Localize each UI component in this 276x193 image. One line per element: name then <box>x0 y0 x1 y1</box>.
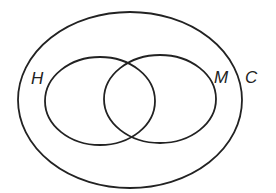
set-m-ellipse <box>104 55 216 143</box>
label-m: M <box>214 68 229 87</box>
label-c: C <box>245 68 258 87</box>
set-h-ellipse <box>45 57 155 145</box>
venn-diagram: H M C <box>0 0 276 193</box>
label-h: H <box>31 69 44 88</box>
set-c-ellipse <box>18 12 242 188</box>
